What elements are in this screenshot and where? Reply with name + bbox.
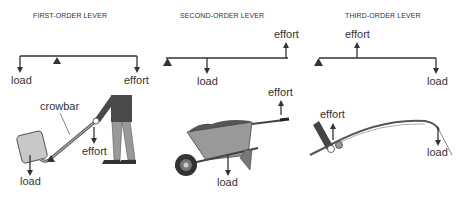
third-order-schematic [314,42,439,74]
first-order-schematic [17,56,140,73]
second-order-schematic [163,42,289,74]
second-order-title: SECOND-ORDER LEVER [180,12,264,19]
first-order-title: FIRST-ORDER LEVER [33,12,107,19]
crowbar-effort-label: effort [82,145,107,157]
fulcrum-icon [163,58,172,66]
second-order-effort-label: effort [274,28,299,40]
first-order-load-label: load [11,74,32,86]
crowbar-label: crowbar [40,100,79,112]
crowbar-load-label: load [20,175,41,187]
fulcrum-icon [314,58,323,66]
wheelbarrow-effort-label: effort [268,86,293,98]
effort-arrow-icon [354,42,360,48]
effort-arrow-icon [134,67,140,73]
load-arrow-icon [433,68,439,74]
second-order-load-label: load [197,75,218,87]
effort-arrow-icon [283,42,289,48]
fulcrum-icon [53,57,61,64]
first-order-effort-label: effort [124,74,149,86]
load-arrow-icon [17,67,23,73]
third-order-load-label: load [427,75,448,87]
fishing-rod-effort-label: effort [320,108,345,120]
wheelbarrow-load-label: load [217,176,238,188]
third-order-title: THIRD-ORDER LEVER [345,12,421,19]
load-arrow-icon [204,68,210,74]
third-order-effort-label: effort [345,28,370,40]
fishing-rod-load-label: load [427,146,448,158]
wheelbarrow-illustration [175,100,289,176]
